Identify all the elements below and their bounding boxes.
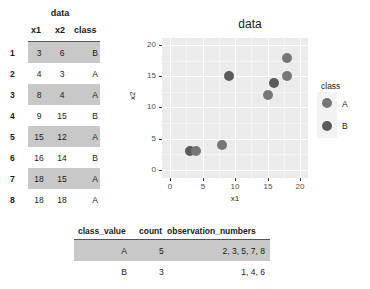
y-tick-mark: [159, 107, 162, 108]
y-axis-label: x2: [128, 92, 137, 100]
cell-x1: 9: [32, 111, 46, 121]
row-index: 1: [10, 48, 15, 58]
cell-x1: 4: [32, 69, 46, 79]
legend-title: class: [321, 81, 340, 91]
cell-x2: 6: [55, 48, 69, 58]
cell-x1: 15: [32, 132, 46, 142]
cell-class-value: A: [117, 246, 127, 256]
data-point-class-b: [269, 78, 279, 88]
x-tick-mark: [268, 178, 269, 181]
grid-minor: [162, 154, 308, 155]
data-point-class-a: [282, 53, 292, 63]
cell-class: B: [80, 111, 98, 121]
x-tick-label: 20: [290, 182, 310, 191]
cell-count: 3: [159, 267, 164, 277]
cell-class: B: [80, 48, 98, 58]
y-tick-mark: [159, 139, 162, 140]
cell-x2: 3: [55, 69, 69, 79]
data-point-class-a: [191, 146, 201, 156]
x-tick-label: 0: [160, 182, 180, 191]
grid-major: [300, 38, 301, 178]
cell-observation-numbers: 1, 4, 6: [241, 267, 265, 277]
cell-x1: 8: [32, 90, 46, 100]
cell-x1: 16: [32, 153, 46, 163]
grid-major: [235, 38, 236, 178]
cell-class: A: [80, 195, 98, 205]
cell-class-value: B: [117, 267, 127, 277]
column-header-count: count: [139, 226, 162, 236]
table-row: 2 4 3 A: [0, 63, 110, 84]
y-tick-mark: [159, 76, 162, 77]
legend-key-b: [322, 121, 332, 131]
cell-observation-numbers: 2, 3, 5, 7, 8: [222, 246, 265, 256]
x-tick-mark: [203, 178, 204, 181]
grid-minor: [251, 38, 252, 178]
y-tick-mark: [159, 170, 162, 171]
column-header-class-value: class_value: [78, 226, 126, 236]
grid-minor: [186, 38, 187, 178]
y-tick-mark: [159, 45, 162, 46]
cell-x1: 18: [32, 195, 46, 205]
x-tick-mark: [170, 178, 171, 181]
grid-major: [162, 45, 308, 46]
row-index: 3: [10, 90, 15, 100]
grid-major: [162, 170, 308, 171]
cell-x1: 18: [32, 174, 46, 184]
cell-x1: 3: [32, 48, 46, 58]
row-index: 2: [10, 69, 15, 79]
chart-title: data: [220, 17, 280, 31]
grid-major: [162, 139, 308, 140]
column-header-x2: x2: [55, 25, 65, 35]
y-tick-label: 5: [136, 134, 156, 143]
data-point-class-a: [217, 140, 227, 150]
cell-class: A: [80, 174, 98, 184]
grid-minor: [219, 38, 220, 178]
column-header-observation-numbers: observation_numbers: [167, 226, 256, 236]
cell-class: A: [80, 69, 98, 79]
x-axis-label: x1: [225, 194, 245, 203]
cell-count: 5: [159, 246, 164, 256]
data-point-class-a: [263, 90, 273, 100]
row-index: 7: [10, 174, 15, 184]
table-row: 8 18 18 A: [0, 189, 110, 210]
row-index: 6: [10, 153, 15, 163]
y-tick-label: 10: [136, 102, 156, 111]
y-tick-label: 0: [136, 165, 156, 174]
grid-major: [203, 38, 204, 178]
cell-class: B: [80, 153, 98, 163]
table-row: 6 16 14 B: [0, 147, 110, 168]
column-header-x1: x1: [31, 25, 41, 35]
cell-x2: 4: [55, 90, 69, 100]
table-row: 3 8 4 A: [0, 84, 110, 105]
cell-x2: 15: [55, 174, 69, 184]
cell-x2: 18: [55, 195, 69, 205]
y-tick-label: 20: [136, 40, 156, 49]
row-index: 5: [10, 132, 15, 142]
data-point-class-a: [282, 71, 292, 81]
x-tick-label: 5: [193, 182, 213, 191]
plot-panel: [162, 38, 308, 178]
data-point-class-b: [224, 71, 234, 81]
table-row: 1 3 6 B: [0, 42, 110, 63]
table-row: 4 9 15 B: [0, 105, 110, 126]
row-index: 4: [10, 111, 15, 121]
y-tick-label: 15: [136, 71, 156, 80]
x-tick-label: 10: [225, 182, 245, 191]
x-tick-mark: [300, 178, 301, 181]
grid-major: [268, 38, 269, 178]
cell-x2: 15: [55, 111, 69, 121]
grid-major: [170, 38, 171, 178]
row-index: 8: [10, 195, 15, 205]
grid-minor: [162, 123, 308, 124]
cell-x2: 14: [55, 153, 69, 163]
table-row: A 5 2, 3, 5, 7, 8: [74, 240, 270, 261]
cell-x2: 12: [55, 132, 69, 142]
x-tick-mark: [235, 178, 236, 181]
table-row: B 3 1, 4, 6: [74, 261, 270, 282]
table-row: 7 18 15 A: [0, 168, 110, 189]
x-tick-label: 15: [258, 182, 278, 191]
legend-key-a: [322, 98, 332, 108]
cell-class: A: [80, 132, 98, 142]
grid-minor: [162, 92, 308, 93]
legend-keys: [317, 92, 337, 138]
